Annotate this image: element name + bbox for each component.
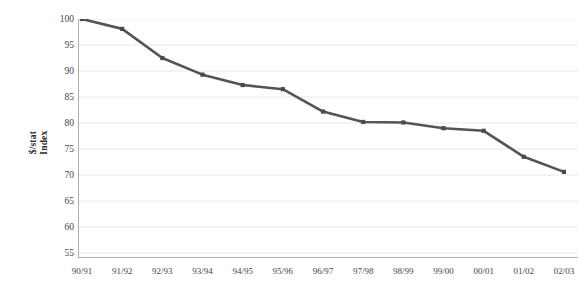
y-axis-tick-label: 70 — [46, 170, 74, 180]
x-axis-tick-label: 93/94 — [192, 266, 213, 276]
chart-container: $/statIndex 100959085807570656055 90/919… — [0, 0, 584, 292]
plot-area — [78, 19, 578, 258]
y-axis-tick-label: 60 — [46, 222, 74, 232]
y-axis-tick-label: 55 — [46, 248, 74, 258]
data-point-markers — [80, 19, 566, 174]
x-axis-tick-label: 95/96 — [273, 266, 294, 276]
y-axis-tick-label: 65 — [46, 196, 74, 206]
x-axis-tick-label: 96/97 — [313, 266, 334, 276]
x-axis-tick-label: 02/03 — [554, 266, 575, 276]
y-axis-title-line-1: $/stat — [28, 131, 38, 154]
data-point-marker — [281, 87, 285, 91]
y-axis-tick-label: 90 — [46, 66, 74, 76]
x-axis-tick-label: 94/95 — [232, 266, 253, 276]
y-axis-tick-label: 100 — [46, 14, 74, 24]
y-axis-tick-labels: 100959085807570656055 — [44, 0, 74, 292]
gridlines — [78, 19, 578, 253]
data-point-marker — [120, 27, 124, 31]
x-axis-tick-label: 99/00 — [433, 266, 454, 276]
data-point-marker — [80, 19, 84, 21]
x-axis-tick-label: 90/91 — [72, 266, 93, 276]
y-axis-tick-label: 75 — [46, 144, 74, 154]
data-point-marker — [441, 126, 445, 130]
y-axis-tick-label: 85 — [46, 92, 74, 102]
x-axis-tick-label: 91/92 — [112, 266, 133, 276]
x-axis-tick-label: 92/93 — [152, 266, 173, 276]
y-axis-tick-label: 80 — [46, 118, 74, 128]
line-chart-svg — [78, 19, 578, 258]
data-point-marker — [321, 109, 325, 113]
x-axis-tick-label: 97/98 — [353, 266, 374, 276]
data-point-marker — [562, 170, 566, 174]
data-point-marker — [482, 129, 486, 133]
x-axis-tick-label: 00/01 — [473, 266, 494, 276]
y-axis-tick-label: 95 — [46, 40, 74, 50]
data-point-marker — [160, 56, 164, 60]
data-point-marker — [241, 83, 245, 87]
data-point-marker — [361, 120, 365, 124]
x-axis-tick-label: 01/02 — [514, 266, 535, 276]
data-point-marker — [200, 73, 204, 77]
x-axis-tick-label: 98/99 — [393, 266, 414, 276]
data-point-marker — [522, 155, 526, 159]
data-point-marker — [401, 120, 405, 124]
